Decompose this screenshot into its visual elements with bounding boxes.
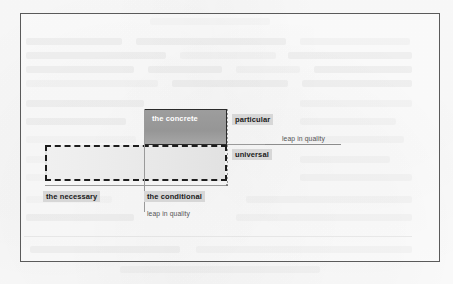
baseline-endpoint-dot (226, 184, 228, 186)
caption-necessary: the necessary (43, 191, 100, 202)
caption-universal: universal (232, 149, 272, 160)
particular-boundary-line (227, 109, 228, 186)
necessary-baseline (45, 185, 227, 186)
figure-frame: the concrete particular universal the ne… (20, 13, 440, 262)
concrete-region-box: the concrete (144, 109, 227, 145)
necessary-region-box (45, 145, 227, 181)
annotation-leap-in-quality-bottom: leap in quality (147, 210, 190, 217)
background-text-line (120, 266, 320, 273)
caption-particular: particular (232, 114, 273, 125)
annotation-leap-in-quality-right: leap in quality (282, 135, 325, 142)
caption-conditional: the conditional (144, 191, 205, 202)
concrete-box-label: the concrete (152, 114, 198, 123)
leap-right-underline (265, 144, 341, 145)
